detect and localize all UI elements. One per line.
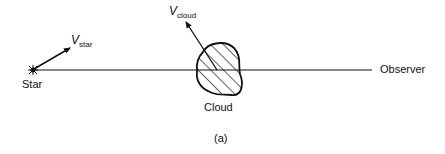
observer-label: Observer bbox=[380, 63, 425, 75]
v-cloud-label: Vcloud bbox=[169, 4, 196, 20]
v-star-symbol: V bbox=[71, 33, 79, 47]
v-cloud-symbol: V bbox=[169, 4, 177, 18]
v-star-arrow-icon bbox=[34, 48, 70, 69]
v-star-label: Vstar bbox=[71, 33, 92, 49]
v-star-subscript: star bbox=[79, 40, 92, 49]
star-label: Star bbox=[22, 78, 42, 90]
diagram-canvas bbox=[0, 0, 445, 154]
figure-caption: (a) bbox=[214, 132, 227, 144]
star-icon bbox=[28, 65, 38, 75]
cloud-label: Cloud bbox=[204, 101, 233, 113]
v-cloud-subscript: cloud bbox=[177, 11, 196, 20]
cloud-shape bbox=[190, 36, 250, 102]
